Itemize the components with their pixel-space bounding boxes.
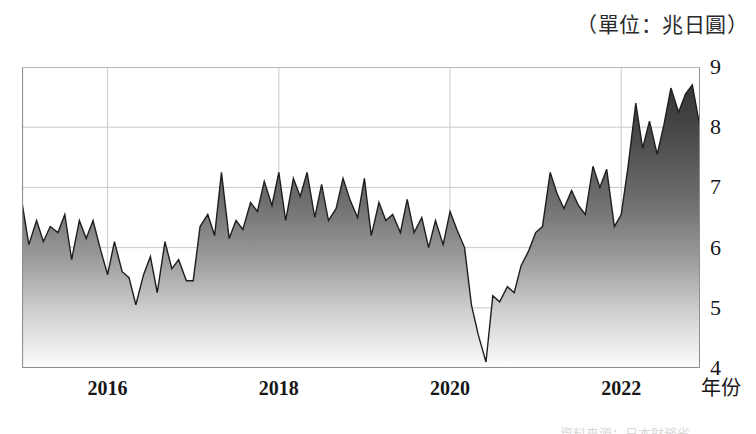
x-axis-title: 年份 xyxy=(701,378,741,398)
area-chart-svg xyxy=(22,67,700,368)
unit-caption: （單位：兆日圓） xyxy=(576,8,748,38)
x-tick-label-2018: 2018 xyxy=(259,378,299,398)
y-tick-label-6: 6 xyxy=(710,237,750,259)
y-tick-label-8: 8 xyxy=(710,116,750,138)
x-tick-label-2020: 2020 xyxy=(430,378,470,398)
x-tick-label-2022: 2022 xyxy=(601,378,641,398)
y-tick-label-9: 9 xyxy=(710,56,750,78)
source-note: 資料來源：日本財務省 xyxy=(560,423,690,434)
y-tick-label-5: 5 xyxy=(710,297,750,319)
y-tick-label-7: 7 xyxy=(710,176,750,198)
x-tick-label-2016: 2016 xyxy=(88,378,128,398)
plot-area xyxy=(22,67,700,368)
